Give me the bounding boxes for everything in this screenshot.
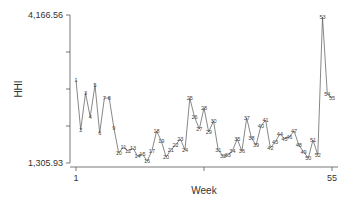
- point-label: 2: [79, 127, 82, 133]
- point-label: 27: [196, 126, 202, 132]
- point-label: 30: [210, 118, 216, 124]
- point-label: 46: [286, 134, 292, 140]
- point-label: 37: [244, 115, 250, 121]
- point-label: 35: [234, 136, 240, 142]
- point-label: 53: [319, 14, 325, 20]
- point-labels: 1234567891011121314151617181920212223242…: [74, 14, 335, 164]
- point-label: 28: [201, 105, 207, 111]
- hhi-series-line: [76, 17, 332, 161]
- point-label: 47: [291, 128, 297, 134]
- point-label: 52: [315, 152, 321, 158]
- point-label: 42: [267, 145, 273, 151]
- point-label: 9: [112, 125, 115, 131]
- point-label: 3: [84, 90, 87, 96]
- point-label: 43: [272, 139, 278, 145]
- point-label: 22: [173, 142, 179, 148]
- point-label: 48: [296, 142, 302, 148]
- point-label: 4: [89, 114, 92, 120]
- x-axis: 1 55 Week: [70, 167, 338, 196]
- y-axis-title: HHI: [13, 80, 24, 97]
- point-label: 15: [139, 151, 145, 157]
- x-tick-label-max: 55: [327, 173, 337, 183]
- point-label: 41: [263, 117, 269, 123]
- y-tick-label-max: 4,166.56: [28, 10, 63, 20]
- hhi-line-chart: 4,166.56 1,305.93 HHI 1 55 Week 12345678…: [0, 0, 356, 200]
- point-label: 19: [158, 138, 164, 144]
- point-label: 5: [93, 82, 96, 88]
- point-label: 17: [149, 148, 155, 154]
- point-label: 39: [253, 142, 259, 148]
- point-label: 55: [329, 95, 335, 101]
- point-label: 23: [177, 136, 183, 142]
- point-label: 34: [229, 148, 235, 154]
- point-label: 1: [74, 77, 77, 83]
- point-label: 10: [116, 150, 122, 156]
- x-tick-label-min: 1: [73, 173, 78, 183]
- point-label: 25: [187, 95, 193, 101]
- point-label: 20: [163, 154, 169, 160]
- point-label: 13: [130, 145, 136, 151]
- point-label: 8: [108, 95, 111, 101]
- point-label: 24: [182, 147, 188, 153]
- point-label: 26: [191, 114, 197, 120]
- plot-area: 1234567891011121314151617181920212223242…: [74, 14, 335, 164]
- point-label: 6: [98, 130, 101, 136]
- point-label: 36: [239, 148, 245, 154]
- point-label: 29: [206, 129, 212, 135]
- point-label: 7: [103, 95, 106, 101]
- point-label: 18: [154, 128, 160, 134]
- y-axis: 4,166.56 1,305.93 HHI: [13, 10, 70, 168]
- point-label: 40: [258, 123, 264, 129]
- point-label: 51: [310, 137, 316, 143]
- point-label: 50: [305, 155, 311, 161]
- point-label: 38: [248, 135, 254, 141]
- y-tick-label-min: 1,305.93: [28, 158, 63, 168]
- x-axis-title: Week: [191, 185, 217, 196]
- point-label: 16: [144, 158, 150, 164]
